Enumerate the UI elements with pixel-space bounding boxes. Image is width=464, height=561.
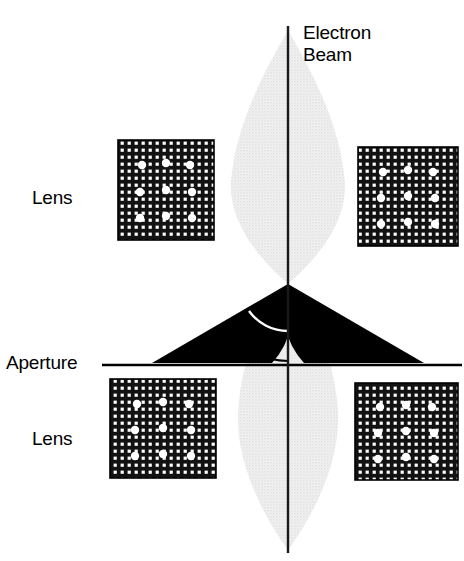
lens-bottom-left — [110, 379, 216, 478]
diagram-canvas: Electron Beam Lens Lens Aperture αi αa — [0, 0, 464, 561]
illumination-cone-right — [283, 284, 424, 363]
lens-top-left — [118, 140, 214, 240]
label-alpha-a: αa — [255, 334, 276, 362]
alpha-i-symbol: α — [265, 296, 277, 321]
label-aperture: Aperture — [6, 352, 77, 373]
alpha-a-symbol: α — [255, 334, 267, 359]
lens-bottom-right — [355, 383, 458, 480]
alpha-i-subscript: i — [277, 306, 282, 323]
label-electron-beam: Electron Beam — [303, 22, 371, 66]
label-lens-top: Lens — [32, 187, 72, 208]
lens-top-right — [358, 147, 458, 246]
alpha-a-subscript: a — [267, 344, 276, 361]
label-lens-bottom: Lens — [32, 428, 72, 449]
label-alpha-i: αi — [265, 296, 283, 324]
diagram-svg — [0, 0, 464, 561]
